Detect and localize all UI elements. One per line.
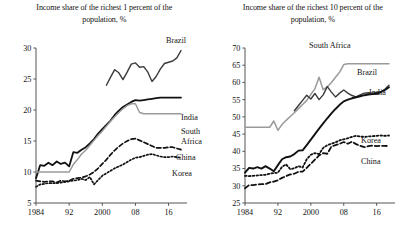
y-axis-tick-label: 30: [232, 182, 240, 191]
series-line-brazil: [106, 50, 181, 85]
y-axis-tick-label: 10: [23, 168, 31, 177]
x-axis-tick-label: 2000: [94, 208, 110, 217]
x-axis-tick-label: 1984: [28, 208, 44, 217]
series-label-south-africa: South Africa: [309, 41, 351, 50]
x-axis-tick-label: 16: [164, 208, 172, 217]
x-axis-tick-label: 1984: [236, 208, 252, 217]
series-label-korea: Korea: [361, 136, 381, 145]
series-label-south-africa: Africa: [181, 137, 202, 146]
y-axis-tick-label: 15: [23, 137, 31, 146]
y-axis-tick-label: 45: [232, 130, 240, 139]
y-axis-tick-label: 70: [232, 44, 240, 53]
chart-panel-left: Income share of the richest 1 percent of…: [0, 0, 209, 225]
x-axis-tick-label: 2000: [302, 208, 318, 217]
y-axis-tick-label: 40: [232, 147, 240, 156]
y-axis-tick-label: 50: [232, 113, 240, 122]
y-axis-tick-label: 30: [23, 44, 31, 53]
series-label-china: China: [361, 157, 381, 166]
income-share-figure: Income share of the richest 1 percent of…: [0, 0, 417, 225]
x-axis-tick-label: 08: [339, 208, 347, 217]
series-label-india: India: [369, 88, 386, 97]
chart-right-plot: 2530354045505560657019849220000816South …: [209, 0, 417, 225]
series-label-india: India: [181, 113, 198, 122]
y-axis-tick-label: 60: [232, 78, 240, 87]
series-label-brazil: Brazil: [166, 36, 187, 45]
x-axis-tick-label: 92: [273, 208, 281, 217]
y-axis-tick-label: 55: [232, 96, 240, 105]
series-line-china: [36, 139, 181, 183]
chart-panel-right: Income share of the richest 10 percent o…: [209, 0, 417, 225]
y-axis-tick-label: 20: [23, 106, 31, 115]
series-line-india: [36, 98, 181, 179]
series-label-brazil: Brazil: [357, 68, 378, 77]
series-label-south-africa: South: [181, 127, 200, 136]
y-axis-tick-label: 65: [232, 61, 240, 70]
x-axis-tick-label: 16: [372, 208, 380, 217]
series-label-korea: Korea: [172, 169, 192, 178]
y-axis-tick-label: 25: [23, 75, 31, 84]
x-axis-tick-label: 08: [131, 208, 139, 217]
chart-left-plot: 5101520253019849220000816BrazilIndiaSout…: [0, 0, 209, 225]
y-axis-tick-label: 35: [232, 164, 240, 173]
x-axis-tick-label: 92: [65, 208, 73, 217]
series-label-china: China: [176, 153, 196, 162]
